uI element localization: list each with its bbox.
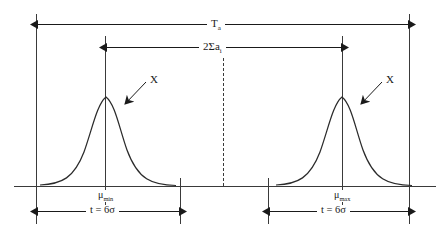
tolerance-label-left: t = 6σ [86,205,119,216]
sum-span-symbol: 2Σa [203,40,220,52]
sum-span-subscript: i [220,47,222,55]
leader-arrow-right-x [361,82,382,104]
sum-span-label: 2Σai [199,41,226,55]
curve-label-left-x: X [150,74,158,85]
process-capability-diagram: Ta 2Σai X X μmin μmax t = 6σ t = 6σ [0,0,447,232]
leader-arrow-left-x [125,82,146,104]
mean-subscript-max: max [339,195,350,202]
total-tolerance-label: Ta [207,18,225,32]
tolerance-label-right: t = 6σ [317,205,350,216]
distribution-curve-left [40,97,176,186]
distribution-curve-right [276,97,412,186]
diagram-canvas [0,0,447,232]
total-tolerance-symbol: T [211,17,218,29]
mean-label-min: μmin [96,190,115,202]
mean-subscript-min: min [103,195,113,202]
curve-label-right-x: X [386,74,394,85]
total-tolerance-subscript: a [218,24,221,32]
mean-label-max: μmax [332,190,352,202]
